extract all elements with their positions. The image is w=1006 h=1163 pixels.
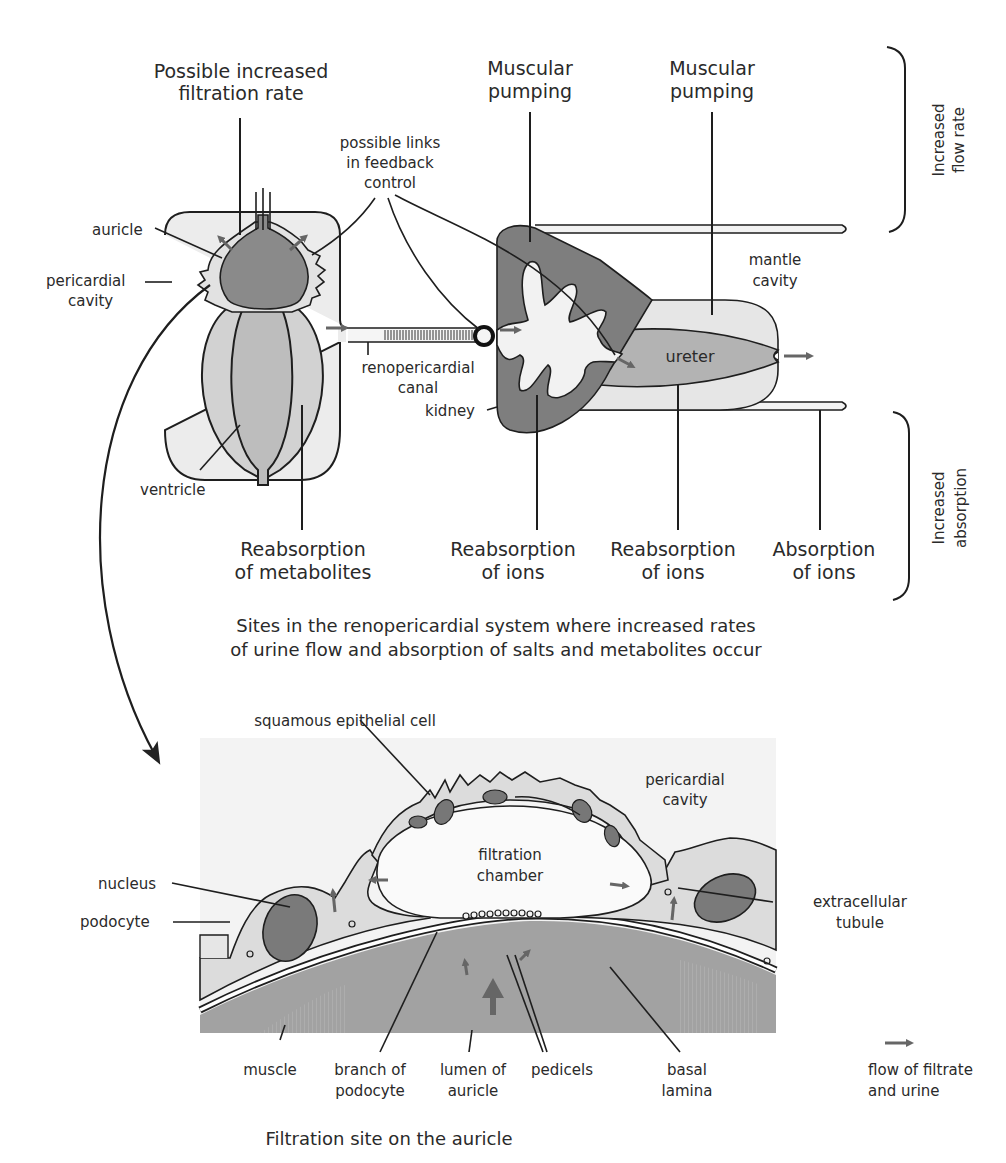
- flow-arrow-icon: [672, 900, 674, 920]
- label-auricle: auricle: [92, 221, 143, 239]
- label-basal-lamina-2: lamina: [662, 1082, 713, 1100]
- renopericardial-diagram: Possible increased filtration rate Muscu…: [0, 0, 1006, 1163]
- label-squamous-epithelial-cell: squamous epithelial cell: [254, 712, 436, 730]
- label-possible-increased-filtration: Possible increased: [154, 60, 329, 82]
- label-increased-flow-rate: Increased: [930, 103, 948, 176]
- caption-top-line-1: Sites in the renopericardial system wher…: [236, 615, 755, 636]
- flow-arrow-icon: [333, 892, 335, 912]
- label-pericardial-cavity-detail: pericardial: [645, 771, 724, 789]
- label-branch-of-podocyte-2: podocyte: [335, 1082, 405, 1100]
- label-pericardial-cavity-detail-2: cavity: [662, 791, 707, 809]
- label-muscle: muscle: [243, 1061, 297, 1079]
- label-pericardial-cavity-2: cavity: [68, 292, 113, 310]
- bottom-panel: squamous epithelial cell pericardial cav…: [80, 712, 973, 1149]
- label-reabsorption-metabolites: Reabsorption: [240, 538, 366, 560]
- label-lumen-of-auricle: lumen of: [440, 1061, 507, 1079]
- label-possible-links-2: in feedback: [346, 154, 434, 172]
- label-extracellular-tubule: extracellular: [813, 893, 908, 911]
- label-filtration-chamber: filtration: [478, 846, 542, 864]
- label-muscular-pumping-kidney-2: pumping: [488, 80, 572, 102]
- label-increased-flow-rate-2: flow rate: [950, 107, 968, 173]
- label-renopericardial-canal: renopericardial: [361, 359, 474, 377]
- label-renopericardial-canal-2: canal: [398, 379, 438, 397]
- bracket-absorption: [893, 412, 909, 600]
- zoom-connector-arrow: [100, 285, 210, 755]
- flow-arrow-icon: [465, 962, 467, 975]
- label-reabsorption-metabolites-2: of metabolites: [235, 561, 372, 583]
- label-lumen-of-auricle-2: auricle: [448, 1082, 499, 1100]
- label-mantle-cavity: mantle: [749, 251, 802, 269]
- caption-top-line-2: of urine flow and absorption of salts an…: [230, 639, 762, 660]
- label-increased-absorption-2: absorption: [952, 468, 970, 548]
- bracket-flow-rate: [887, 47, 905, 232]
- flow-arrow-icon: [610, 884, 626, 886]
- label-absorption-ions: Absorption: [773, 538, 876, 560]
- mantle-wall-top: [535, 225, 846, 233]
- label-podocyte: podocyte: [80, 913, 150, 931]
- label-nucleus: nucleus: [98, 875, 156, 893]
- label-muscular-pumping-ureter: Muscular: [669, 57, 755, 79]
- nephrostome: [475, 327, 493, 345]
- label-possible-links: possible links: [340, 134, 441, 152]
- label-kidney: kidney: [425, 402, 475, 420]
- label-reabsorption-ions-ureter-2: of ions: [641, 561, 704, 583]
- label-pericardial-cavity: pericardial: [46, 272, 125, 290]
- label-absorption-ions-2: of ions: [792, 561, 855, 583]
- label-pedicels: pedicels: [531, 1061, 593, 1079]
- label-mantle-cavity-2: cavity: [752, 272, 797, 290]
- label-reabsorption-ions-ureter: Reabsorption: [610, 538, 736, 560]
- label-reabsorption-ions-kidney-2: of ions: [481, 561, 544, 583]
- label-ventricle: ventricle: [140, 481, 205, 499]
- label-increased-absorption: Increased: [930, 471, 948, 544]
- label-ureter: ureter: [666, 347, 715, 366]
- legend-flow-text-2: and urine: [868, 1082, 940, 1100]
- label-filtration-chamber-2: chamber: [477, 867, 544, 885]
- label-basal-lamina: basal: [667, 1061, 707, 1079]
- label-extracellular-tubule-2: tubule: [836, 914, 884, 932]
- label-muscular-pumping-kidney: Muscular: [487, 57, 573, 79]
- label-possible-links-3: control: [364, 174, 416, 192]
- label-possible-increased-filtration-2: filtration rate: [178, 82, 303, 104]
- label-branch-of-podocyte: branch of: [334, 1061, 406, 1079]
- label-muscular-pumping-ureter-2: pumping: [670, 80, 754, 102]
- caption-bottom: Filtration site on the auricle: [265, 1128, 512, 1149]
- top-panel: Possible increased filtration rate Muscu…: [46, 47, 970, 755]
- legend-flow-text: flow of filtrate: [868, 1061, 973, 1079]
- label-reabsorption-ions-kidney: Reabsorption: [450, 538, 576, 560]
